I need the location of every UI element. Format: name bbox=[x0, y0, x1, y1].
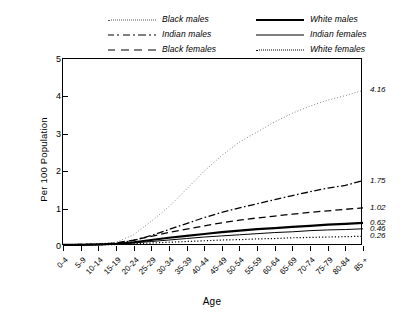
legend-line-swatch bbox=[256, 30, 304, 40]
legend-item-white-females: White females bbox=[256, 42, 367, 57]
y-tick-label: 0 bbox=[43, 242, 61, 251]
legend-item-white-males: White males bbox=[256, 12, 367, 27]
y-tick-label: 5 bbox=[43, 55, 61, 64]
x-tick-mark bbox=[63, 246, 64, 251]
legend-item-black-males: Black males bbox=[108, 12, 216, 27]
x-tick-mark bbox=[116, 246, 117, 251]
x-tick-mark bbox=[222, 246, 223, 251]
x-tick-mark bbox=[187, 246, 188, 251]
legend-item-label: Indian females bbox=[310, 30, 367, 39]
end-label-white-females: 0.26 bbox=[370, 232, 386, 240]
legend-item-label: White males bbox=[310, 15, 358, 24]
y-tick-label: 2 bbox=[43, 167, 61, 176]
x-axis-title: Age bbox=[62, 296, 362, 307]
legend-line-swatch bbox=[108, 15, 156, 25]
y-tick-label: 1 bbox=[43, 204, 61, 213]
x-tick-mark bbox=[345, 246, 346, 251]
chart-container: Black malesIndian malesBlack females Whi… bbox=[0, 0, 416, 319]
legend-item-black-females: Black females bbox=[108, 42, 216, 57]
end-label-black-males: 4.16 bbox=[370, 86, 386, 94]
legend-item-label: Black males bbox=[162, 15, 209, 24]
x-tick-mark bbox=[275, 246, 276, 251]
plot-lines bbox=[63, 59, 363, 246]
x-tick-mark bbox=[98, 246, 99, 251]
x-tick-mark bbox=[151, 246, 152, 251]
legend-item-label: Indian males bbox=[162, 30, 211, 39]
x-tick-mark bbox=[363, 246, 364, 251]
y-tick-label: 3 bbox=[43, 129, 61, 138]
end-label-indian-males: 1.75 bbox=[370, 177, 386, 185]
legend-item-label: White females bbox=[310, 45, 365, 54]
chart-legend: Black malesIndian malesBlack females Whi… bbox=[108, 12, 398, 58]
legend-line-swatch bbox=[108, 30, 156, 40]
x-tick-mark bbox=[204, 246, 205, 251]
x-tick-mark bbox=[310, 246, 311, 251]
series-line-indian-males bbox=[63, 181, 363, 245]
legend-line-swatch bbox=[256, 45, 304, 55]
legend-column-left: Black malesIndian malesBlack females bbox=[108, 12, 216, 57]
legend-item-indian-males: Indian males bbox=[108, 27, 216, 42]
y-tick-label: 4 bbox=[43, 92, 61, 101]
legend-line-swatch bbox=[108, 45, 156, 55]
legend-item-indian-females: Indian females bbox=[256, 27, 367, 42]
series-line-black-males bbox=[63, 90, 363, 244]
legend-item-label: Black females bbox=[162, 45, 216, 54]
x-tick-mark bbox=[257, 246, 258, 251]
legend-line-swatch bbox=[256, 15, 304, 25]
end-label-black-females: 1.02 bbox=[370, 204, 386, 212]
x-tick-mark bbox=[239, 246, 240, 251]
x-tick-mark bbox=[81, 246, 82, 251]
x-tick-mark bbox=[169, 246, 170, 251]
legend-column-right: White malesIndian femalesWhite females bbox=[256, 12, 367, 57]
plot-area: Per 100 Population 012345 0-45-910-1415-… bbox=[62, 58, 362, 245]
y-axis-title: Per 100 Population bbox=[38, 80, 49, 240]
x-tick-mark bbox=[328, 246, 329, 251]
x-tick-mark bbox=[134, 246, 135, 251]
series-line-white-males bbox=[63, 223, 363, 245]
x-tick-mark bbox=[292, 246, 293, 251]
